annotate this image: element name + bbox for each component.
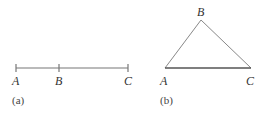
figure-a-segment (16, 64, 128, 72)
diagram-canvas (0, 0, 269, 114)
label-c-fig-b: C (246, 75, 254, 87)
label-a-fig-a: A (12, 75, 19, 87)
caption-a: (a) (12, 95, 24, 106)
label-b-fig-a: B (55, 75, 62, 87)
label-a-fig-b: A (160, 75, 167, 87)
label-b-fig-b: B (197, 6, 204, 18)
label-c-fig-a: C (124, 75, 132, 87)
figure-b-triangle (165, 20, 251, 68)
caption-b: (b) (160, 95, 173, 106)
